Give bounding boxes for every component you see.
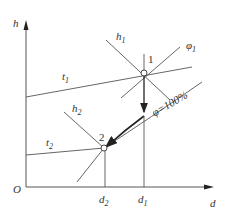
point1-label: 1	[148, 53, 154, 65]
t2-label: t2	[46, 136, 53, 151]
x-axis	[26, 185, 214, 190]
saturation-label: φ=100%	[150, 89, 190, 119]
point2-rh-line	[77, 148, 104, 182]
y-axis-arrow-icon	[24, 20, 29, 30]
d1-label: d1	[138, 193, 148, 208]
t1-label: t1	[62, 70, 69, 85]
h1-label: h1	[116, 30, 126, 45]
y-axis-label: h	[13, 17, 19, 29]
t2-line	[26, 148, 104, 155]
point2-label: 2	[99, 131, 105, 143]
process-dehumidify-arrow	[106, 116, 144, 147]
t1-line	[26, 67, 192, 97]
h2-line	[64, 112, 104, 148]
y-axis	[24, 20, 29, 187]
x-axis-label: d	[210, 197, 216, 209]
origin-label: O	[13, 183, 21, 195]
x-axis-arrow-icon	[204, 185, 214, 190]
point-2-marker	[101, 145, 107, 151]
d2-label: d2	[99, 193, 109, 208]
h2-label: h2	[72, 102, 82, 117]
point-1-marker	[141, 70, 147, 76]
hd-diagram: h d O t1 h1 φ1 1 φ=100% d1 t2 h2 d2 2	[0, 0, 228, 214]
phi1-label: φ1	[186, 39, 196, 54]
h1-line	[106, 40, 170, 100]
